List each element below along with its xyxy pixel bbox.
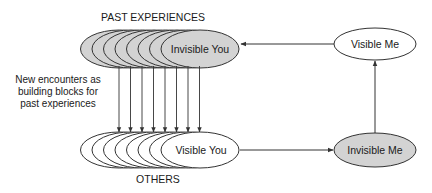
invisible-me-label: Invisible Me: [347, 144, 403, 156]
visible-you-label: Visible You: [175, 144, 226, 156]
visible-me-node: Visible Me: [334, 28, 416, 60]
note-line: building blocks for: [18, 86, 99, 97]
note-line: New encounters as: [15, 74, 101, 85]
past-experiences-label: PAST EXPERIENCES: [101, 11, 205, 23]
others-label: OTHERS: [136, 173, 180, 185]
invisible-me-node: Invisible Me: [334, 133, 416, 167]
diagram: PAST EXPERIENCES OTHERS New encounters a…: [0, 0, 432, 193]
visible-me-label: Visible Me: [351, 38, 399, 50]
invisible-you-label: Invisible You: [171, 43, 230, 55]
diagram-canvas: PAST EXPERIENCES OTHERS New encounters a…: [0, 0, 432, 193]
encounters-note: New encounters as building blocks for pa…: [15, 74, 101, 109]
note-line: past experiences: [20, 98, 96, 109]
encounter-arrows: [119, 66, 200, 132]
